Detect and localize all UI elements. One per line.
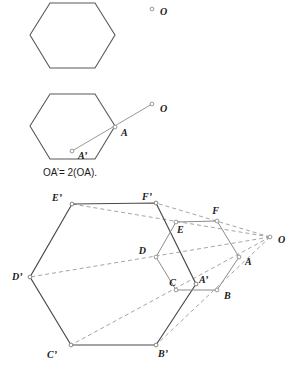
point-b-marker (215, 288, 219, 292)
geometry-figure: O O A A’ OA’= 2(OA). (0, 0, 302, 368)
point-b-prime-marker (154, 343, 158, 347)
top-panel: O (30, 3, 167, 68)
hexagon-top (30, 3, 115, 68)
point-d-marker (154, 255, 158, 259)
middle-panel: O A A’ OA’= 2(OA). (30, 94, 167, 178)
hexagon-outer-abcdef-prime (30, 203, 196, 345)
label-e: E (176, 224, 184, 235)
point-c-prime-marker (69, 343, 73, 347)
vertex-markers (28, 201, 272, 347)
label-e-prime: E’ (51, 192, 62, 203)
point-f-marker (215, 219, 219, 223)
label-a-middle: A (120, 127, 128, 138)
label-b-prime: B’ (157, 348, 168, 359)
label-o-bottom: O (278, 234, 285, 245)
label-o-top: O (160, 6, 167, 17)
label-f: F (211, 205, 219, 216)
label-b: B (223, 290, 231, 301)
label-c: C (169, 277, 176, 288)
dilation-diagram-svg: O O A A’ OA’= 2(OA). (0, 0, 302, 368)
bottom-panel: E’ F’ F E D A D’ C A’ B C’ B’ O (11, 191, 285, 360)
label-f-prime: F’ (141, 191, 152, 202)
point-a-marker (237, 255, 241, 259)
ray-o-a-aprime (72, 104, 152, 151)
point-d-prime-marker (28, 275, 32, 279)
point-o-marker (150, 7, 154, 11)
point-a-marker (113, 125, 117, 129)
point-o-marker (268, 235, 272, 239)
label-o-middle: O (160, 103, 167, 114)
point-o-marker (150, 102, 154, 106)
label-d: D (138, 245, 146, 256)
label-a: A (244, 256, 252, 267)
vertex-labels: E’ F’ F E D A D’ C A’ B C’ B’ O (11, 191, 285, 360)
label-c-prime: C’ (47, 349, 57, 360)
point-a-prime-marker (194, 282, 198, 286)
caption-oa-relation: OA’= 2(OA). (43, 167, 97, 178)
point-c-marker (174, 288, 178, 292)
point-e-prime-marker (70, 202, 74, 206)
point-f-prime-marker (154, 201, 158, 205)
label-a-prime: A’ (198, 274, 208, 285)
construction-rays (30, 203, 270, 345)
point-a-prime-marker (70, 149, 74, 153)
label-d-prime: D’ (11, 271, 23, 282)
label-a-prime-middle: A’ (77, 150, 87, 161)
